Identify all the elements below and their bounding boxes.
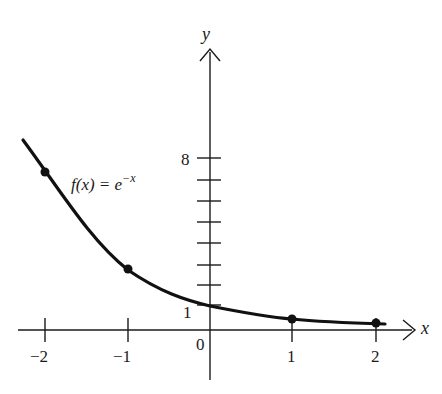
x-tick-label-minus2: −2 bbox=[30, 347, 48, 366]
y-tick-label-1: 1 bbox=[183, 303, 192, 322]
function-label-base: f(x) = e bbox=[71, 175, 123, 194]
point-x-1 bbox=[288, 315, 297, 324]
point-x-minus1 bbox=[124, 265, 133, 274]
x-tick-label-minus1: −1 bbox=[113, 347, 131, 366]
exponential-curve bbox=[23, 140, 385, 324]
origin-label: 0 bbox=[196, 335, 205, 354]
y-tick-label-8: 8 bbox=[181, 150, 190, 169]
x-axis-label: x bbox=[420, 318, 429, 338]
x-tick-label-2: 2 bbox=[371, 347, 380, 366]
exponential-decay-chart: y x 8 1 0 −2 −1 1 2 f(x) = e−x bbox=[0, 0, 442, 394]
y-axis-label: y bbox=[200, 24, 210, 44]
function-label-exponent: −x bbox=[122, 171, 136, 185]
x-tick-label-1: 1 bbox=[287, 347, 296, 366]
point-x-minus2 bbox=[41, 168, 50, 177]
function-label: f(x) = e−x bbox=[71, 171, 136, 194]
point-x-2 bbox=[372, 319, 381, 328]
